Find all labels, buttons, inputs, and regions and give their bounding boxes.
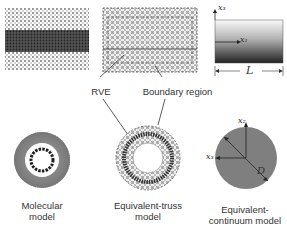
length-label: L <box>246 64 253 77</box>
molecular-cross-section <box>14 132 70 188</box>
rve-callout-label: RVE <box>86 86 116 97</box>
continuum-cross-section <box>215 122 277 189</box>
molecular-side-view <box>5 8 89 70</box>
continuum-model-label: Equivalent- continuum model <box>200 204 287 226</box>
diameter-label: D <box>257 165 265 176</box>
truss-model-label: Equivalent-truss model <box>103 200 193 222</box>
truss-side-view <box>103 8 197 72</box>
axis-x1-label: x₁ <box>240 35 248 44</box>
truss-cross-section <box>116 126 180 190</box>
axis-x2-label-bottom: x₂ <box>238 116 246 125</box>
boundary-region-callout-label: Boundary region <box>140 86 215 97</box>
axis-x3-label-bottom: x₃ <box>206 152 214 161</box>
axis-x3-label-top: x₃ <box>218 3 226 12</box>
molecular-model-label: Molecular model <box>2 200 82 222</box>
